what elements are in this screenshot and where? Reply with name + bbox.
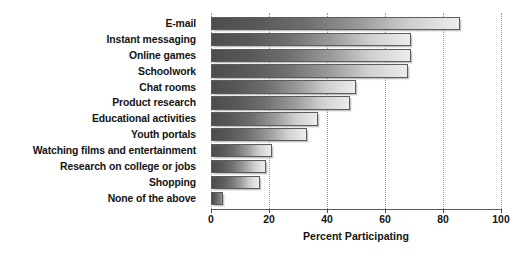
tick-mark — [211, 209, 212, 213]
bar — [211, 192, 223, 205]
category-label: None of the above — [0, 191, 203, 207]
x-axis-title: Percent Participating — [211, 230, 501, 242]
category-label: Youth portals — [0, 127, 203, 143]
category-label: Educational activities — [0, 111, 203, 127]
tick-mark — [269, 209, 270, 213]
x-axis-ticks: 020406080100 — [211, 209, 501, 231]
category-label: Schoolwork — [0, 64, 203, 80]
bar-row — [211, 64, 501, 80]
bar — [211, 49, 411, 62]
bar — [211, 128, 307, 141]
bar — [211, 17, 460, 30]
bar — [211, 160, 266, 173]
tick-mark — [501, 209, 502, 213]
bar-row — [211, 127, 501, 143]
category-label: Online games — [0, 48, 203, 64]
bar-row — [211, 143, 501, 159]
tick-label: 100 — [492, 214, 509, 225]
tick-label: 60 — [379, 214, 391, 225]
bar-row — [211, 48, 501, 64]
category-axis-labels: E-mailInstant messagingOnline gamesSchoo… — [0, 16, 203, 207]
bar-row — [211, 32, 501, 48]
plot-area: E-mailInstant messagingOnline gamesSchoo… — [0, 0, 529, 256]
tick-mark — [443, 209, 444, 213]
category-label: Shopping — [0, 175, 203, 191]
bar — [211, 33, 411, 46]
tick-label: 80 — [437, 214, 449, 225]
tick-label: 20 — [263, 214, 275, 225]
category-label: E-mail — [0, 16, 203, 32]
bar-row — [211, 16, 501, 32]
bar — [211, 64, 408, 77]
bar-row — [211, 95, 501, 111]
bar — [211, 96, 350, 109]
bar-row — [211, 159, 501, 175]
bar-row — [211, 80, 501, 96]
bar-row — [211, 175, 501, 191]
category-label: Chat rooms — [0, 80, 203, 96]
tick-mark — [385, 209, 386, 213]
bar — [211, 112, 318, 125]
gridline — [501, 13, 502, 211]
bar-chart: E-mailInstant messagingOnline gamesSchoo… — [0, 0, 529, 256]
category-label: Instant messaging — [0, 32, 203, 48]
bar-row — [211, 111, 501, 127]
bar — [211, 144, 272, 157]
tick-label: 0 — [208, 214, 214, 225]
tick-mark — [327, 209, 328, 213]
bar — [211, 176, 260, 189]
category-label: Product research — [0, 95, 203, 111]
tick-label: 40 — [321, 214, 333, 225]
category-label: Research on college or jobs — [0, 159, 203, 175]
bar-row — [211, 191, 501, 207]
category-label: Watching films and entertainment — [0, 143, 203, 159]
bars-container — [211, 16, 501, 208]
bar — [211, 80, 356, 93]
